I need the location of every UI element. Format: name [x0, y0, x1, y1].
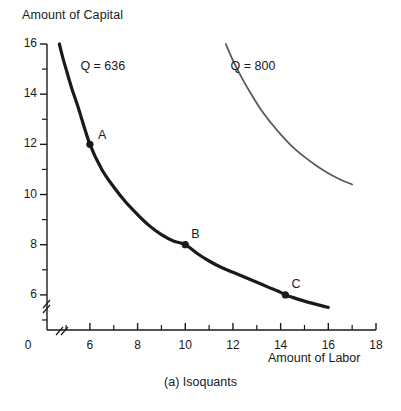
y-axis-title: Amount of Capital — [22, 8, 123, 22]
x-tick-label-12: 12 — [218, 338, 248, 352]
points-layer — [86, 141, 289, 299]
data-point-a — [86, 141, 93, 148]
point-label-c: C — [291, 277, 300, 291]
x-tick-label-18: 18 — [361, 338, 391, 352]
curves-layer — [59, 44, 352, 307]
y-tick-label-12: 12 — [7, 136, 37, 150]
x-tick-label-8: 8 — [123, 338, 153, 352]
origin-label: 0 — [17, 338, 39, 352]
x-tick-label-10: 10 — [170, 338, 200, 352]
isoquant-figure: Amount of Capital 6810121416681012141618… — [0, 0, 401, 411]
x-tick-label-6: 6 — [75, 338, 105, 352]
curve-label-2: Q = 800 — [231, 59, 276, 73]
y-tick-label-10: 10 — [7, 187, 37, 201]
curve-label-1: Q = 636 — [80, 59, 125, 73]
data-point-c — [282, 291, 289, 298]
y-tick-label-8: 8 — [7, 237, 37, 251]
y-tick-label-6: 6 — [7, 287, 37, 301]
x-tick-label-14: 14 — [266, 338, 296, 352]
point-label-a: A — [98, 128, 106, 142]
x-axis-title: Amount of Labor — [268, 351, 360, 365]
x-tick-label-16: 16 — [313, 338, 343, 352]
data-point-b — [182, 241, 189, 248]
figure-caption: (a) Isoquants — [0, 375, 401, 389]
point-label-b: B — [191, 227, 199, 241]
y-tick-label-14: 14 — [7, 86, 37, 100]
axes-layer — [40, 44, 376, 335]
y-tick-label-16: 16 — [7, 36, 37, 50]
isoquant-curve-1 — [59, 44, 328, 307]
